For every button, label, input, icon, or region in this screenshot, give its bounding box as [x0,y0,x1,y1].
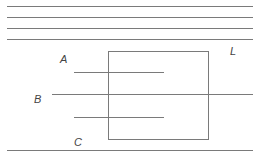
top-line-1 [7,6,253,7]
top-line-2 [7,17,253,18]
line-a [74,72,164,73]
bottom-line [7,150,253,151]
label-a: A [60,54,67,65]
label-b: B [34,94,41,105]
top-line-3 [7,28,253,29]
line-c [74,117,164,118]
line-b [52,94,253,95]
rectangle-box [108,51,209,140]
top-line-4 [7,39,253,40]
label-l: L [230,46,236,57]
label-c: C [74,137,82,148]
